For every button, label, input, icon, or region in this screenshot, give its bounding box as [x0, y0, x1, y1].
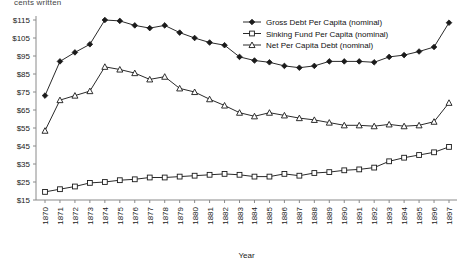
- x-axis-tick-label: 1889: [325, 206, 334, 224]
- open-square-icon: [87, 181, 92, 186]
- filled-diamond-icon: [297, 65, 303, 71]
- open-square-icon: [342, 168, 347, 173]
- open-square-icon: [372, 165, 377, 170]
- y-axis-tick-label: $55: [17, 124, 31, 133]
- y-axis-tick-label: $105: [12, 34, 30, 43]
- filled-diamond-icon: [252, 58, 258, 64]
- open-square-icon: [192, 173, 197, 178]
- open-square-icon: [447, 145, 452, 150]
- x-axis-tick-label: 1875: [116, 206, 125, 224]
- filled-diamond-icon: [267, 60, 273, 66]
- open-square-icon: [162, 175, 167, 180]
- x-axis-tick-label: 1882: [221, 206, 230, 224]
- open-square-icon: [147, 175, 152, 180]
- open-triangle-icon: [446, 100, 452, 106]
- open-square-icon: [102, 180, 107, 185]
- y-axis-tick-label: $35: [17, 160, 31, 169]
- x-axis-tick-label: 1897: [445, 206, 454, 224]
- chart-container: cents written $115$105$95$85$75$65$55$45…: [0, 0, 461, 266]
- open-square-icon: [312, 171, 317, 176]
- open-square-icon: [117, 178, 122, 183]
- open-square-icon: [207, 172, 212, 177]
- filled-diamond-icon: [431, 44, 437, 50]
- series-line: [45, 67, 449, 131]
- filled-diamond-icon: [177, 30, 183, 36]
- x-axis-tick-label: 1876: [131, 206, 140, 224]
- filled-diamond-icon: [42, 93, 48, 99]
- open-square-icon: [432, 150, 437, 155]
- x-axis-tick-label: 1890: [340, 206, 349, 224]
- filled-diamond-icon: [326, 59, 332, 65]
- open-triangle-icon: [222, 103, 228, 109]
- x-axis-tick-label: 1895: [415, 206, 424, 224]
- open-square-icon: [297, 173, 302, 178]
- open-triangle-icon: [87, 88, 93, 94]
- filled-diamond-icon: [102, 17, 108, 23]
- open-square-icon: [177, 174, 182, 179]
- open-square-icon: [252, 174, 257, 179]
- line-chart-plot: $115$105$95$85$75$65$55$45$35$25$1518701…: [0, 0, 461, 266]
- filled-diamond-icon: [57, 59, 63, 65]
- x-axis-tick-label: 1881: [206, 206, 215, 224]
- open-square-icon: [73, 184, 78, 189]
- y-axis-tick-label: $115: [13, 16, 31, 25]
- x-axis-tick-label: 1887: [295, 206, 304, 224]
- x-axis-tick-label: 1885: [265, 206, 274, 224]
- x-axis-tick-label: 1877: [146, 206, 155, 224]
- series-filled-diamond: [42, 17, 452, 98]
- open-triangle-icon: [162, 74, 168, 80]
- filled-diamond-icon: [386, 54, 392, 60]
- open-square-icon: [43, 190, 48, 195]
- x-axis-tick-label: 1872: [71, 206, 80, 224]
- x-axis-tick-label: 1873: [86, 206, 95, 224]
- open-triangle-icon: [237, 110, 243, 116]
- x-axis-tick-label: 1892: [370, 206, 379, 224]
- y-axis-tick-label: $25: [17, 178, 31, 187]
- open-triangle-icon: [266, 110, 272, 116]
- x-axis-tick-label: 1874: [101, 206, 110, 224]
- x-axis-tick-label: 1896: [430, 206, 439, 224]
- open-square-icon: [417, 153, 422, 158]
- legend-item-label: Gross Debt Per Capita (nominal): [266, 18, 382, 27]
- legend-item-label: Sinking Fund Per Capita (nominal): [266, 30, 389, 39]
- filled-diamond-icon: [249, 19, 255, 25]
- x-axis-tick-label: 1884: [250, 206, 259, 224]
- x-axis-tick-label: 1888: [310, 206, 319, 224]
- x-axis-tick-label: 1879: [176, 206, 185, 224]
- filled-diamond-icon: [356, 59, 362, 65]
- x-axis-tick-label: 1878: [161, 206, 170, 224]
- x-axis-tick-label: 1891: [355, 206, 364, 224]
- open-square-icon: [282, 172, 287, 177]
- filled-diamond-icon: [446, 20, 452, 26]
- y-axis-tick-label: $95: [17, 52, 31, 61]
- filled-diamond-icon: [312, 63, 318, 69]
- filled-diamond-icon: [132, 23, 138, 29]
- x-axis-title: Year: [238, 251, 255, 260]
- open-triangle-icon: [102, 64, 108, 70]
- filled-diamond-icon: [416, 49, 422, 55]
- x-axis-tick-label: 1871: [56, 206, 65, 224]
- open-square-icon: [58, 187, 63, 192]
- filled-diamond-icon: [371, 60, 377, 66]
- x-axis-tick-label: 1883: [236, 206, 245, 224]
- open-square-icon: [387, 159, 392, 164]
- legend-item-label: Net Per Capita Debt (nominal): [266, 41, 373, 50]
- series-open-triangle: [42, 64, 452, 133]
- series-line: [45, 147, 449, 192]
- filled-diamond-icon: [192, 35, 198, 41]
- x-axis-tick-label: 1886: [280, 206, 289, 224]
- filled-diamond-icon: [117, 18, 123, 24]
- open-triangle-icon: [207, 96, 213, 102]
- y-axis-tick-label: $45: [17, 142, 31, 151]
- open-square-icon: [237, 172, 242, 177]
- open-square-icon: [132, 177, 137, 182]
- open-square-icon: [250, 31, 255, 36]
- open-triangle-icon: [42, 128, 48, 134]
- y-axis-tick-label: $85: [17, 70, 31, 79]
- filled-diamond-icon: [87, 42, 93, 48]
- filled-diamond-icon: [147, 25, 153, 31]
- series-open-square: [43, 145, 452, 195]
- open-square-icon: [327, 170, 332, 175]
- chart-legend: Gross Debt Per Capita (nominal)Sinking F…: [243, 18, 389, 50]
- y-axis-tick-label: $65: [17, 106, 31, 115]
